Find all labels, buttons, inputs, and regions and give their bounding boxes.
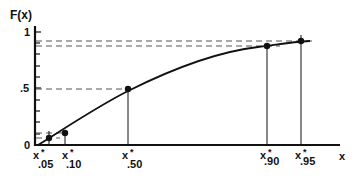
- x-tick-q95: x * .95: [295, 147, 315, 167]
- svg-text:.95: .95: [300, 155, 315, 167]
- cdf-chart: F(x) 1 .5 0 x * .05 x * .10 x * .50 x * …: [0, 0, 357, 176]
- x-axis-title: x: [339, 150, 346, 162]
- point-q90: [264, 43, 270, 49]
- svg-text:.10: .10: [66, 158, 81, 170]
- point-q95: [298, 38, 304, 44]
- svg-text:*: *: [70, 147, 74, 157]
- svg-text:.90: .90: [264, 155, 279, 167]
- svg-text:.50: .50: [127, 158, 142, 170]
- quantile-points: [46, 38, 304, 141]
- y-axis-title: F(x): [10, 8, 32, 22]
- x-tick-q90: x * .90: [260, 147, 279, 167]
- cdf-curve: [38, 41, 310, 145]
- x-tick-q10: x * .10: [62, 147, 81, 170]
- dashed-reference-lines: [36, 41, 312, 138]
- point-q05: [46, 135, 52, 141]
- point-q10: [62, 130, 68, 136]
- svg-text:.05: .05: [38, 158, 53, 170]
- x-tick-q05: x * .05: [33, 147, 53, 170]
- y-tick-0: 0: [24, 139, 30, 151]
- point-q50: [125, 86, 131, 92]
- vertical-drop-lines: [49, 35, 301, 145]
- y-tick-1: 1: [24, 26, 30, 38]
- svg-text:*: *: [41, 147, 45, 157]
- svg-text:*: *: [130, 147, 134, 157]
- y-tick-05: .5: [20, 82, 29, 94]
- x-tick-q50: x * .50: [122, 147, 142, 170]
